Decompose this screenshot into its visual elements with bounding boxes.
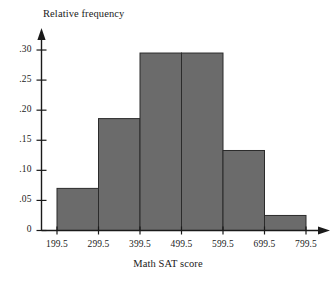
y-axis-tick-label: .25 bbox=[8, 74, 32, 84]
y-axis-tick-label: 0 bbox=[8, 224, 32, 234]
histogram-bar bbox=[182, 53, 224, 230]
histogram-bar bbox=[140, 53, 182, 230]
histogram-bar bbox=[265, 215, 307, 230]
x-axis-title: Math SAT score bbox=[0, 258, 336, 269]
histogram-bar bbox=[99, 119, 141, 231]
histogram-bar bbox=[57, 188, 99, 230]
x-axis-tick-label: 699.5 bbox=[243, 239, 287, 249]
x-axis-tick-label: 599.5 bbox=[201, 239, 245, 249]
x-axis-tick-label: 399.5 bbox=[118, 239, 162, 249]
x-axis-arrow-icon bbox=[318, 226, 330, 234]
histogram-bar bbox=[223, 150, 265, 230]
y-axis-tick-label: .10 bbox=[8, 164, 32, 174]
bars-group bbox=[57, 53, 306, 230]
y-axis-tick-label: .30 bbox=[8, 44, 32, 54]
histogram-figure: Relative frequency 0.05.10.15.20.25.30 1… bbox=[0, 0, 336, 281]
x-axis-tick-label: 799.5 bbox=[284, 239, 328, 249]
y-axis-tick-label: .20 bbox=[8, 104, 32, 114]
y-axis-tick-label: .15 bbox=[8, 134, 32, 144]
y-axis-arrow-icon bbox=[37, 28, 45, 40]
x-axis-tick-label: 199.5 bbox=[35, 239, 79, 249]
x-axis-tick-label: 299.5 bbox=[77, 239, 121, 249]
y-axis-tick-label: .05 bbox=[8, 194, 32, 204]
x-axis-tick-label: 499.5 bbox=[160, 239, 204, 249]
